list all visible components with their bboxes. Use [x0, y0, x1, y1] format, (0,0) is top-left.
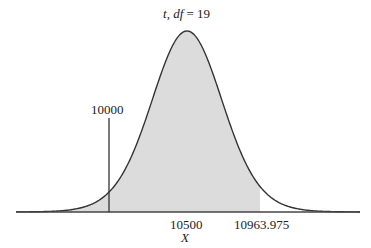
t-distribution-chart [0, 0, 371, 248]
tick-label-10963: 10963.975 [234, 217, 289, 233]
shaded-area [16, 31, 260, 212]
x-axis-label: X [181, 230, 189, 246]
marker-10000-label: 10000 [91, 102, 124, 118]
chart-title: t, df = 19 [163, 6, 210, 22]
